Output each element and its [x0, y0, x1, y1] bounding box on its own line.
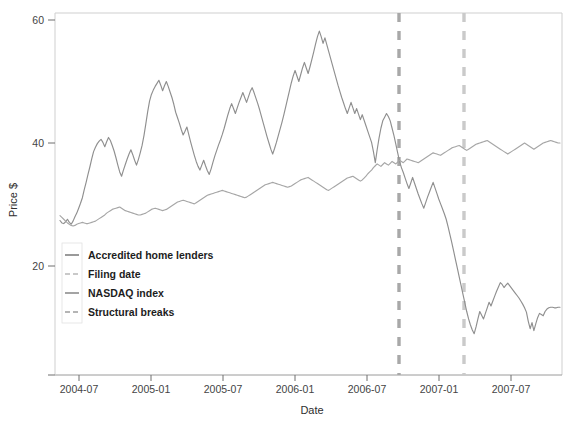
legend-label-3: Structural breaks — [88, 306, 175, 318]
legend-label-2: NASDAQ index — [88, 287, 164, 299]
y-axis-title: Price $ — [7, 183, 19, 217]
x-tick-label-4: 2006-07 — [348, 383, 387, 395]
x-axis-ticks — [79, 375, 511, 381]
x-axis-title: Date — [300, 404, 323, 416]
x-tick-label-5: 2007-01 — [420, 383, 459, 395]
y-tick-label-60: 60 — [32, 14, 44, 26]
x-tick-label-6: 2007-07 — [492, 383, 531, 395]
plot-frame — [55, 13, 562, 375]
y-tick-label-20: 20 — [32, 260, 44, 272]
series-line-1 — [60, 141, 560, 226]
x-tick-label-3: 2006-01 — [276, 383, 315, 395]
x-tick-label-2: 2005-07 — [204, 383, 243, 395]
x-tick-label-0: 2004-07 — [60, 383, 99, 395]
chart-legend: Accredited home lendersFiling dateNASDAQ… — [62, 243, 214, 323]
price-chart: 60 40 20 Price $ 2004-07 2005-01 2005-07… — [0, 0, 578, 424]
x-tick-label-1: 2005-01 — [132, 383, 171, 395]
y-tick-label-40: 40 — [32, 137, 44, 149]
legend-label-0: Accredited home lenders — [88, 249, 214, 261]
vertical-reference-lines — [399, 13, 464, 375]
y-axis-ticks — [48, 20, 55, 375]
legend-label-1: Filing date — [88, 268, 141, 280]
chart-svg: 60 40 20 Price $ 2004-07 2005-01 2005-07… — [0, 0, 578, 424]
